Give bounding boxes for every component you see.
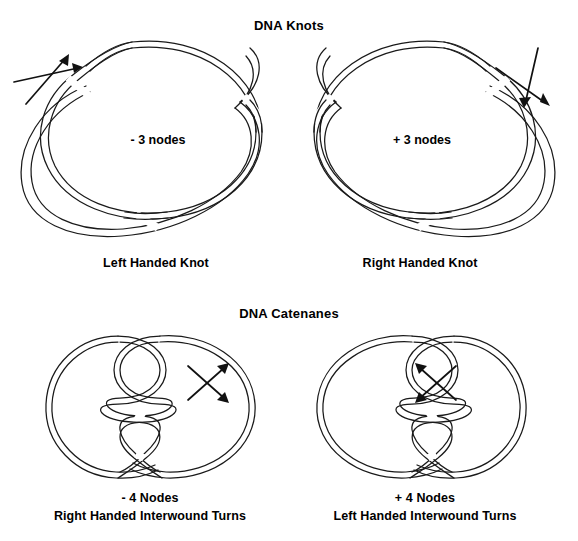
left-catenane-crossing-arrows-icon xyxy=(182,358,236,408)
left-handed-knot-caption: Left Handed Knot xyxy=(28,254,284,272)
dna-topology-figure: DNA Knots DNA Catenanes xyxy=(0,0,578,541)
right-handed-knot-caption: Right Handed Knot xyxy=(292,254,548,272)
right-knot-crossing-arrows-icon xyxy=(486,42,566,114)
dna-catenanes-section-title: DNA Catenanes xyxy=(0,306,578,321)
arrow-up-right xyxy=(26,54,69,104)
right-catenane-handedness-label: Left Handed Interwound Turns xyxy=(284,507,566,525)
right-knot-node-label: + 3 nodes xyxy=(322,133,522,147)
left-knot-crossing-arrows-icon xyxy=(12,44,90,110)
right-catenane-node-label: + 4 Nodes xyxy=(284,489,566,507)
left-catenane-handedness-label: Right Handed Interwound Turns xyxy=(14,507,286,525)
arrow-down-steep xyxy=(519,48,538,108)
left-knot-node-label: - 3 nodes xyxy=(58,133,258,147)
left-catenane-node-label: - 4 Nodes xyxy=(14,489,286,507)
left-catenane-caption: - 4 Nodes Right Handed Interwound Turns xyxy=(14,489,286,525)
right-catenane-caption: + 4 Nodes Left Handed Interwound Turns xyxy=(284,489,566,525)
right-catenane-crossing-arrows-icon xyxy=(408,358,462,408)
